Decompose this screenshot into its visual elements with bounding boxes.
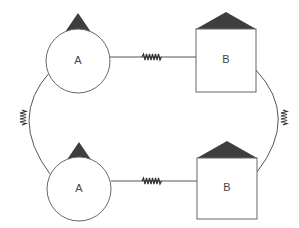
roof-cap-icon: [196, 12, 256, 29]
node-label: A: [74, 54, 82, 66]
node-b-top: B: [196, 12, 256, 92]
arc-connector-right: [256, 70, 278, 172]
spring-icon-right: [281, 110, 287, 125]
diagram-canvas: A B A B: [0, 0, 299, 228]
node-a-bottom: A: [47, 142, 111, 221]
node-label: A: [75, 182, 83, 194]
spring-icon-left: [20, 110, 26, 125]
node-label: B: [222, 53, 229, 65]
roof-cap-icon: [197, 141, 257, 158]
node-a-top: A: [46, 13, 110, 93]
node-label: B: [223, 181, 230, 193]
arc-connector-left: [29, 72, 50, 174]
node-b-bottom: B: [197, 141, 257, 219]
